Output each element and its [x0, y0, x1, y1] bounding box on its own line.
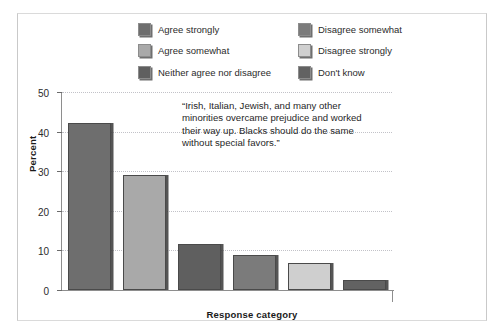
legend-swatch-icon	[298, 44, 311, 57]
y-axis-tick: 30	[57, 171, 62, 172]
y-axis-tick-label: 20	[38, 206, 49, 217]
y-axis-tick-label: 0	[43, 286, 49, 297]
y-axis-tick: 0	[57, 290, 62, 291]
bar	[123, 175, 166, 290]
legend-swatch-icon	[138, 23, 151, 36]
bar	[68, 123, 111, 291]
gridline	[62, 92, 392, 93]
legend-swatch-icon	[298, 23, 311, 36]
chart-page: Agree stronglyDisagree somewhatAgree som…	[0, 0, 504, 335]
y-axis-tick: 40	[57, 132, 62, 133]
legend-item: Don't know	[298, 62, 438, 83]
y-axis-tick-label: 30	[38, 167, 49, 178]
chart-legend: Agree stronglyDisagree somewhatAgree som…	[138, 19, 438, 83]
y-axis-tick-label: 40	[38, 127, 49, 138]
legend-item: Disagree strongly	[298, 40, 438, 61]
gridline	[62, 171, 392, 172]
bar	[288, 263, 331, 290]
bar	[178, 244, 221, 290]
axis-baseline	[62, 290, 394, 291]
legend-item-label: Neither agree nor disagree	[158, 67, 271, 78]
legend-swatch-icon	[138, 66, 151, 79]
bar	[233, 255, 276, 290]
legend-item-label: Disagree strongly	[318, 45, 392, 56]
legend-item: Agree somewhat	[138, 40, 298, 61]
legend-swatch-icon	[138, 44, 151, 57]
legend-item-label: Agree strongly	[158, 24, 219, 35]
y-axis-title: Percent	[27, 136, 38, 172]
y-axis-tick: 20	[57, 211, 62, 212]
y-axis-tick-label: 10	[38, 246, 49, 257]
legend-item-label: Agree somewhat	[158, 45, 229, 56]
bar	[343, 280, 386, 290]
x-axis-title: Response category	[0, 309, 504, 320]
legend-item-label: Disagree somewhat	[318, 24, 402, 35]
legend-item-label: Don't know	[318, 67, 365, 78]
y-axis-tick: 50	[57, 92, 62, 93]
gridline	[62, 211, 392, 212]
legend-swatch-icon	[298, 66, 311, 79]
gridline	[62, 250, 392, 251]
x-axis-end-tick	[392, 290, 393, 302]
quote-annotation: “Irish, Italian, Jewish, and many other …	[182, 100, 362, 150]
legend-item: Agree strongly	[138, 19, 298, 40]
y-axis-tick: 10	[57, 250, 62, 251]
legend-item: Disagree somewhat	[298, 19, 438, 40]
legend-item: Neither agree nor disagree	[138, 62, 298, 83]
y-axis-tick-label: 50	[38, 88, 49, 99]
